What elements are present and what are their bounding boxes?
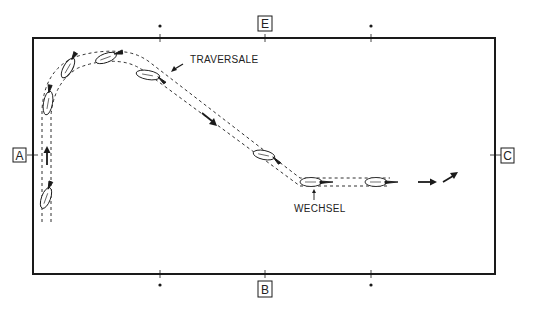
marker-label-a: A — [15, 149, 23, 163]
traversale-annotation: TRAVERSALE — [171, 54, 258, 72]
wechsel-label: WECHSEL — [294, 203, 346, 214]
pointer-arrow-icon — [171, 66, 177, 72]
arrow-right-icon — [418, 179, 437, 186]
horse-icon — [59, 51, 81, 80]
arrow-down-right-icon — [202, 113, 217, 126]
horse-icon — [365, 178, 398, 187]
arrow-up-right-icon — [443, 172, 458, 182]
marker-label-b: B — [261, 283, 269, 297]
traversale-label: TRAVERSALE — [190, 54, 258, 65]
letter-marker-c: C — [501, 148, 514, 163]
direction-arrows — [44, 113, 459, 186]
horse-icon — [135, 68, 167, 84]
dot-marker-bottom-left — [158, 283, 161, 286]
wechsel-annotation: WECHSEL — [294, 189, 346, 214]
horses — [38, 48, 398, 210]
arena-diagram: A E C B — [0, 0, 538, 311]
dot-marker-bottom-right — [369, 283, 372, 286]
letter-marker-b: B — [258, 281, 272, 297]
letter-marker-a: A — [13, 148, 26, 163]
horse-icon — [300, 178, 333, 187]
dot-marker-top-right — [369, 24, 372, 27]
arrow-up-icon — [44, 146, 51, 165]
letter-marker-e: E — [258, 16, 272, 31]
pointer-arrow-icon — [312, 189, 316, 193]
marker-label-e: E — [261, 17, 269, 31]
marker-label-c: C — [503, 149, 512, 163]
horse-track — [42, 51, 390, 222]
horse-icon — [38, 180, 56, 209]
horse-icon — [94, 48, 124, 66]
dot-marker-top-left — [158, 24, 161, 27]
